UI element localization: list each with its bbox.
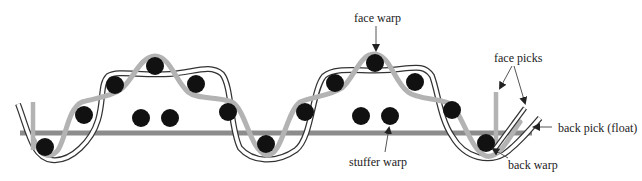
pick xyxy=(146,57,164,75)
pick xyxy=(366,54,384,72)
pick xyxy=(219,103,237,121)
pick xyxy=(381,107,399,125)
pick xyxy=(36,138,54,156)
face-warp-label: face warp xyxy=(354,12,401,24)
face-picks-arrow-1 xyxy=(500,66,512,88)
pick xyxy=(296,103,314,121)
pick xyxy=(443,101,461,119)
pick xyxy=(257,135,275,153)
face-picks-label: face picks xyxy=(494,52,542,64)
stuffer-warp-label: stuffer warp xyxy=(349,156,407,168)
pick xyxy=(106,76,124,94)
pick xyxy=(161,109,179,127)
back-warp-label: back warp xyxy=(508,159,558,171)
pick xyxy=(187,75,205,93)
pick xyxy=(75,106,93,124)
back-pick-label: back pick (float) xyxy=(558,122,637,134)
pick xyxy=(326,74,344,92)
pick xyxy=(352,107,370,125)
pick xyxy=(406,73,424,91)
pick xyxy=(477,134,495,152)
weave-diagram xyxy=(0,0,642,181)
face-picks-arrow-2 xyxy=(514,66,525,103)
pick xyxy=(132,109,150,127)
